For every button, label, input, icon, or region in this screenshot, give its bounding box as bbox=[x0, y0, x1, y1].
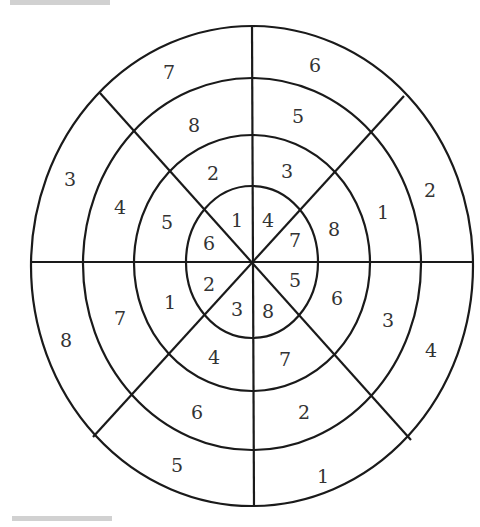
cell-number-ring2-s-se: 7 bbox=[279, 348, 291, 370]
cell-number-inner-e-se: 5 bbox=[289, 269, 301, 291]
number-wheel-diagram: 14758326238674158513267476241583 bbox=[0, 0, 480, 527]
cell-numbers: 14758326238674158513267476241583 bbox=[60, 54, 437, 487]
cell-number-inner-s-se: 8 bbox=[262, 300, 274, 322]
cell-number-outer-w-sw: 8 bbox=[60, 329, 72, 351]
cell-number-outer-s-se: 1 bbox=[317, 465, 329, 487]
cell-number-ring2-s-sw: 4 bbox=[208, 346, 220, 368]
cell-number-inner-e-ne: 7 bbox=[289, 229, 301, 251]
cell-number-outer-n-nw: 7 bbox=[163, 61, 175, 83]
cell-number-outer-w-nw: 3 bbox=[64, 168, 76, 190]
cell-number-inner-w-nw: 6 bbox=[203, 232, 215, 254]
cell-number-ring3-w-sw: 7 bbox=[114, 307, 126, 329]
cell-number-ring3-n-ne: 5 bbox=[292, 105, 304, 127]
cell-number-ring3-n-nw: 8 bbox=[188, 114, 200, 136]
cell-number-ring3-e-ne: 1 bbox=[377, 201, 389, 223]
cell-number-outer-e-ne: 2 bbox=[424, 179, 436, 201]
cell-number-ring2-w-nw: 5 bbox=[161, 211, 173, 233]
cell-number-ring2-n-ne: 3 bbox=[281, 160, 293, 182]
cell-number-inner-w-sw: 2 bbox=[203, 273, 215, 295]
cell-number-ring2-e-se: 6 bbox=[331, 287, 343, 309]
cell-number-ring3-s-sw: 6 bbox=[191, 401, 203, 423]
cell-number-ring3-e-se: 3 bbox=[382, 309, 394, 331]
cell-number-ring3-w-nw: 4 bbox=[114, 196, 126, 218]
cell-number-outer-s-sw: 5 bbox=[171, 454, 183, 476]
cell-number-outer-e-se: 4 bbox=[425, 339, 437, 361]
cell-number-outer-n-ne: 6 bbox=[309, 54, 321, 76]
spoke-vertical bbox=[252, 27, 254, 506]
cell-number-ring3-s-se: 2 bbox=[298, 401, 310, 423]
cell-number-inner-n-nw: 1 bbox=[231, 209, 243, 231]
cell-number-inner-n-ne: 4 bbox=[262, 209, 274, 231]
cell-number-ring2-n-nw: 2 bbox=[207, 162, 219, 184]
spoke-diagonal-ne-sw bbox=[93, 96, 404, 437]
spoke-diagonal-nw-se bbox=[100, 93, 411, 440]
cell-number-ring2-w-sw: 1 bbox=[164, 291, 176, 313]
cell-number-ring2-e-ne: 8 bbox=[328, 218, 340, 240]
cell-number-inner-s-sw: 3 bbox=[231, 298, 243, 320]
